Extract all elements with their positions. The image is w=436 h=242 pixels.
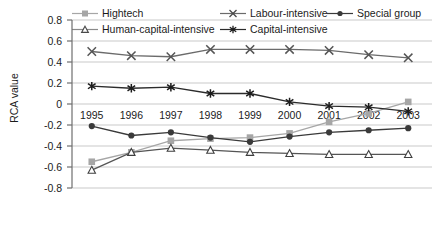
data-point bbox=[326, 129, 332, 135]
data-point bbox=[128, 132, 134, 138]
series-special-group bbox=[89, 123, 412, 145]
data-point bbox=[286, 133, 292, 139]
rca-line-chart: Hightech Labour-intensive Special group bbox=[0, 0, 436, 242]
series-human-capital-intensive bbox=[88, 144, 412, 173]
series-labour-intensive bbox=[88, 45, 413, 62]
data-point bbox=[168, 129, 174, 135]
series-capital-intensive bbox=[88, 82, 412, 116]
series-line bbox=[92, 49, 408, 57]
data-point bbox=[405, 125, 411, 131]
data-point bbox=[366, 127, 372, 133]
data-point bbox=[88, 158, 95, 165]
data-point bbox=[207, 135, 213, 141]
data-point bbox=[405, 99, 412, 106]
plot-area bbox=[0, 0, 436, 242]
data-point bbox=[89, 123, 95, 129]
data-point bbox=[326, 119, 333, 126]
data-point bbox=[247, 139, 253, 145]
data-point bbox=[168, 137, 175, 144]
